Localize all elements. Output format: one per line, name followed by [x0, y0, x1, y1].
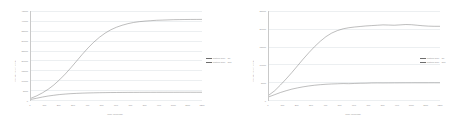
- y-tick-label: 10000: [260, 64, 266, 66]
- series-line: [269, 83, 440, 97]
- x-tick-label: 1000: [171, 104, 176, 106]
- y-tick-label: 5000: [261, 82, 266, 84]
- y-tick-label: 0: [265, 100, 266, 102]
- legend-swatch-icon: [420, 58, 426, 59]
- y-axis-ticks-right: 0500010000150002000025000: [238, 11, 266, 101]
- y-tick-label: 20000: [260, 28, 266, 30]
- x-tick-label: 600: [352, 104, 356, 106]
- x-tick-label: 400: [323, 104, 327, 106]
- x-tick-label: 1100: [185, 104, 190, 106]
- x-axis-ticks-right: 0100200300400500600700800900100011001200: [268, 104, 440, 110]
- x-tick-label: 1200: [199, 104, 204, 106]
- x-axis-title-right: Time (seconds): [298, 113, 408, 115]
- legend-left: Particle size = 50Particle size = 500: [206, 57, 232, 65]
- figure-canvas: Concentration (ppm) 05000100001500020000…: [0, 0, 475, 126]
- series-line: [269, 25, 440, 95]
- plot-area-right: [268, 11, 440, 101]
- x-tick-label: 700: [366, 104, 370, 106]
- legend-item[interactable]: Particle size = 500: [420, 61, 446, 63]
- legend-right: Particle size = 50Particle size = 500: [420, 57, 446, 65]
- y-tick-label: 25000: [22, 50, 28, 52]
- x-tick-label: 300: [71, 104, 75, 106]
- legend-swatch-icon: [206, 58, 212, 59]
- x-tick-label: 200: [57, 104, 61, 106]
- y-tick-label: 0: [27, 100, 28, 102]
- x-tick-label: 100: [280, 104, 284, 106]
- legend-label: Particle size = 500: [213, 61, 232, 63]
- y-tick-label: 35000: [22, 30, 28, 32]
- x-tick-label: 1200: [437, 104, 442, 106]
- x-tick-label: 0: [267, 104, 268, 106]
- legend-label: Particle size = 500: [427, 61, 446, 63]
- x-tick-label: 1000: [409, 104, 414, 106]
- x-tick-label: 700: [128, 104, 132, 106]
- x-tick-label: 600: [114, 104, 118, 106]
- y-tick-label: 5000: [23, 90, 28, 92]
- series-line: [31, 19, 202, 98]
- x-tick-label: 500: [100, 104, 104, 106]
- x-tick-label: 900: [157, 104, 161, 106]
- x-tick-label: 100: [42, 104, 46, 106]
- legend-swatch-icon: [206, 62, 212, 63]
- x-axis-ticks-left: 0100200300400500600700800900100011001200: [30, 104, 202, 110]
- x-axis-title-left: Time (seconds): [60, 113, 170, 115]
- x-tick-label: 800: [381, 104, 385, 106]
- series-lines-right: [269, 11, 440, 100]
- legend-swatch-icon: [420, 62, 426, 63]
- legend-item[interactable]: Particle size = 50: [206, 57, 232, 59]
- y-tick-label: 45000: [22, 10, 28, 12]
- x-tick-label: 0: [29, 104, 30, 106]
- y-axis-ticks-left: 0500010000150002000025000300003500040000…: [0, 11, 28, 101]
- series-lines-left: [31, 11, 202, 100]
- x-tick-label: 300: [309, 104, 313, 106]
- chart-panel-left: Concentration (ppm) 05000100001500020000…: [0, 0, 237, 126]
- x-tick-label: 900: [395, 104, 399, 106]
- y-tick-label: 15000: [22, 70, 28, 72]
- plot-area-left: [30, 11, 202, 101]
- x-tick-label: 500: [338, 104, 342, 106]
- legend-item[interactable]: Particle size = 50: [420, 57, 446, 59]
- x-tick-label: 800: [143, 104, 147, 106]
- legend-label: Particle size = 50: [427, 57, 445, 59]
- y-tick-label: 15000: [260, 46, 266, 48]
- series-line: [31, 92, 202, 99]
- y-tick-label: 10000: [22, 80, 28, 82]
- y-tick-label: 40000: [22, 20, 28, 22]
- x-tick-label: 400: [85, 104, 89, 106]
- y-tick-label: 20000: [22, 60, 28, 62]
- x-tick-label: 1100: [423, 104, 428, 106]
- x-tick-label: 200: [295, 104, 299, 106]
- chart-panel-right: Concentration (ppm) 05000100001500020000…: [238, 0, 475, 126]
- y-tick-label: 30000: [22, 40, 28, 42]
- legend-item[interactable]: Particle size = 500: [206, 61, 232, 63]
- y-tick-label: 25000: [260, 10, 266, 12]
- legend-label: Particle size = 50: [213, 57, 231, 59]
